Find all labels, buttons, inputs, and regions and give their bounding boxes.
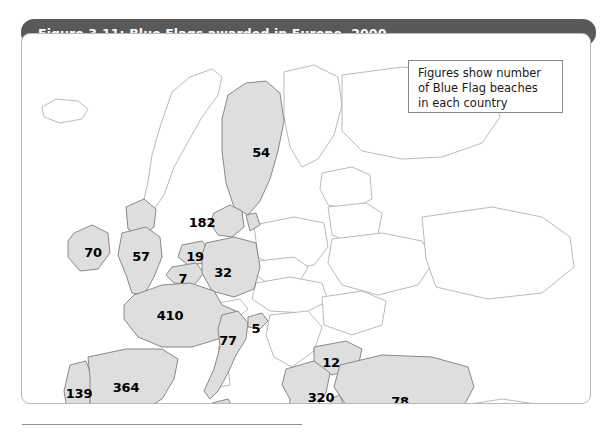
map-value-italy: 77: [219, 333, 237, 348]
map-value-bulgaria: 12: [322, 355, 340, 370]
country-middle-east: [452, 399, 562, 403]
country-norway: [142, 69, 222, 215]
country-austria-hungary: [252, 277, 328, 313]
legend-line-3: in each country: [418, 96, 562, 111]
country-romania: [322, 291, 386, 335]
legend-line-2: of Blue Flag beaches: [418, 81, 562, 96]
country-ukraine: [328, 233, 434, 295]
map-value-united-kingdom: 57: [132, 249, 150, 264]
map-value-denmark: 182: [189, 215, 216, 230]
country-iceland: [42, 99, 88, 123]
map-value-belgium: 7: [179, 271, 188, 286]
country-russia-south: [422, 207, 574, 299]
map-value-sweden: 54: [252, 145, 270, 160]
map-value-ireland: 70: [84, 245, 102, 260]
country-baltics: [320, 167, 372, 209]
map-value-turkey: 78: [391, 394, 409, 404]
country-finland: [284, 65, 342, 167]
map-value-greece: 320: [308, 390, 335, 404]
map-value-germany: 32: [214, 265, 232, 280]
map-value-slovenia: 5: [252, 321, 261, 336]
map-value-netherlands: 19: [186, 249, 204, 264]
legend-note-box: Figures show number of Blue Flag beaches…: [408, 60, 563, 113]
legend-line-1: Figures show number: [418, 66, 562, 81]
country-shape-spain: [88, 349, 178, 403]
map-value-portugal: 139: [66, 386, 93, 401]
map-value-spain: 364: [113, 380, 140, 395]
country-shape-sicily: [212, 399, 234, 403]
map-value-france: 410: [157, 308, 184, 323]
footer-divider: [22, 424, 302, 425]
